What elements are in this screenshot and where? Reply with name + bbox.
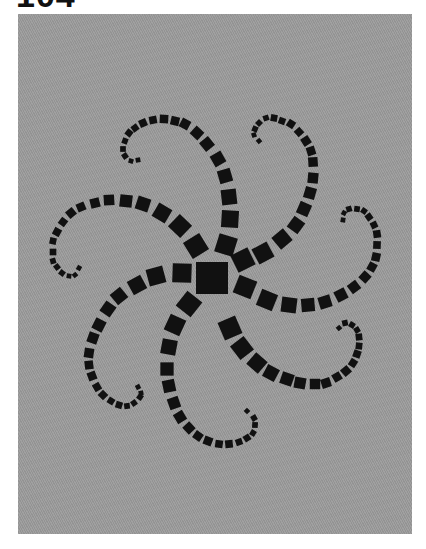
spiral-square-lower: [192, 430, 204, 442]
spiral-square-upper-left: [89, 197, 101, 209]
spiral-square-right: [358, 270, 371, 283]
spiral-square-right: [347, 280, 362, 295]
spiral-square-upper-left: [65, 207, 77, 219]
spiral-square-upper-left: [50, 258, 57, 265]
spiral-square-lower-right: [355, 342, 362, 349]
spiral-square-lower-left: [127, 275, 148, 296]
spiral-square-top: [135, 157, 140, 162]
spiral-square-lower: [160, 362, 173, 375]
spiral-square-lower-right: [320, 377, 332, 389]
spiral-square-lower: [244, 408, 251, 415]
spiral-square-lower: [160, 338, 178, 356]
spiral-square-upper-left: [103, 194, 114, 205]
spiral-square-upper-right: [306, 146, 317, 157]
spiral-square-lower-right: [279, 371, 295, 387]
spiral-square-lower-left: [84, 348, 95, 359]
spiral-square-lower-left: [99, 300, 116, 317]
spiral-square-lower-left: [130, 399, 138, 407]
spiral-square-lower-left: [135, 384, 141, 390]
spiral-square-upper-right: [270, 114, 278, 122]
spiral-square-upper-right: [294, 127, 305, 138]
spiral-square-lower-right: [331, 371, 343, 383]
spiral-square-lower: [202, 435, 213, 446]
spiral-square-upper-left: [72, 272, 79, 279]
spiral-square-top: [190, 126, 205, 141]
spiral-square-top: [179, 118, 192, 131]
spiral-square-top: [121, 152, 129, 160]
spiral-square-right: [340, 217, 345, 222]
spiral-square-lower-right: [310, 379, 320, 389]
spiral-square-lower-right: [218, 316, 243, 341]
spiral-square-lower-right: [246, 352, 267, 373]
spiral-square-upper-left: [135, 196, 152, 213]
spiral-squares: [49, 114, 381, 448]
spiral-square-upper-right: [271, 228, 292, 249]
spiral-square-top: [149, 116, 158, 125]
spiral-square-top: [221, 189, 238, 206]
spiral-square-upper-left: [75, 201, 86, 212]
spiral-square-top: [160, 115, 169, 124]
spiral-square-right: [345, 205, 352, 212]
spiral-square-right: [341, 210, 347, 216]
spiral-square-lower-right: [353, 326, 361, 334]
spiral-square-lower-left: [124, 403, 130, 409]
spiral-square-right: [366, 261, 378, 273]
spiral-square-top: [170, 116, 180, 126]
spiral-square-upper-right: [251, 125, 258, 132]
spiral-square-lower-left: [98, 390, 109, 401]
spiral-square-lower: [173, 410, 187, 424]
spiral-square-upper-right: [255, 119, 263, 127]
spiral-square-upper-right: [251, 132, 257, 138]
spiral-square-lower-left: [115, 401, 123, 409]
spiral-square-top: [199, 136, 215, 152]
spiral-square-lower-left: [106, 396, 115, 405]
spiral-square-right: [233, 275, 258, 300]
spiral-square-upper-right: [230, 247, 255, 272]
spiral-square-top: [138, 118, 148, 128]
spiral-square-upper-left: [49, 237, 57, 245]
spiral-square-upper-left: [58, 269, 66, 277]
spiral-square-upper-left: [119, 194, 133, 208]
spiral-square-right: [370, 221, 379, 230]
spiral-square-right: [301, 298, 315, 312]
spiral-square-lower-right: [342, 320, 349, 327]
spiral-square-lower-right: [293, 376, 306, 389]
spiral-square-upper-left: [183, 233, 209, 259]
spiral-square-lower-right: [355, 333, 362, 340]
spiral-square-upper-left: [58, 217, 69, 228]
spiral-square-lower-right: [348, 321, 356, 329]
spiral-square-upper-right: [287, 216, 306, 235]
spiral-square-right: [373, 230, 382, 239]
spiral-square-lower: [250, 414, 258, 422]
spiral-square-lower-left: [138, 390, 144, 396]
spiral-square-top: [120, 146, 126, 152]
spiral-square-upper-right: [256, 138, 263, 145]
spiral-artwork: [0, 0, 426, 549]
spiral-square-top: [128, 158, 134, 164]
spiral-square-lower-left: [146, 266, 167, 287]
spiral-square-right: [373, 241, 381, 249]
spiral-square-upper-right: [251, 241, 274, 264]
spiral-square-top: [214, 233, 238, 257]
spiral-square-upper-right: [286, 119, 297, 130]
spiral-square-lower: [176, 291, 203, 318]
spiral-square-upper-left: [66, 273, 71, 278]
spiral-square-lower-left: [92, 382, 102, 392]
spiral-square-upper-right: [300, 135, 312, 147]
spiral-square-lower-left: [87, 371, 98, 382]
spiral-square-lower-left: [172, 263, 192, 283]
spiral-square-right: [364, 212, 373, 221]
spiral-square-lower: [225, 440, 233, 448]
center-square: [196, 262, 228, 294]
spiral-square-upper-right: [307, 172, 318, 183]
spiral-square-lower-left: [84, 360, 94, 370]
spiral-square-right: [360, 207, 368, 215]
spiral-square-top: [217, 168, 233, 184]
spiral-square-lower: [167, 396, 182, 411]
spiral-square-lower: [164, 314, 187, 337]
spiral-square-lower: [182, 421, 195, 434]
spiral-square-lower: [252, 422, 258, 428]
spiral-square-upper-left: [52, 227, 62, 237]
spiral-square-lower: [249, 429, 257, 437]
spiral-square-right: [256, 289, 278, 311]
